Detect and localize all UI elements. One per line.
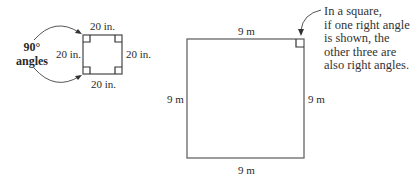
right-angle-mark-top-left: [83, 35, 90, 42]
right-angle-note: In a square, if one right angle is shown…: [324, 5, 410, 73]
note-pointer-curve: [301, 10, 321, 30]
large-square: [187, 39, 304, 158]
small-square-right-label: 20 in.: [126, 49, 151, 60]
large-square-bottom-label: 9 m: [238, 165, 255, 176]
large-square-left-label: 9 m: [167, 94, 184, 105]
right-angle-mark-bottom-left: [83, 67, 90, 74]
angles-callout-word: angles: [12, 54, 52, 68]
arrow-curve-top: [34, 26, 80, 40]
arrow-curve-bottom: [34, 68, 80, 82]
arrow-head-bottom: [75, 75, 82, 80]
angles-callout: 90° angles: [12, 40, 52, 68]
small-square: [83, 35, 122, 74]
large-square-right-label: 9 m: [308, 94, 325, 105]
large-square-top-label: 9 m: [238, 26, 255, 37]
note-line: also right angles.: [324, 59, 410, 73]
small-square-bottom-label: 20 in.: [91, 79, 116, 90]
small-square-left-label: 20 in.: [56, 49, 81, 60]
note-pointer-head: [298, 29, 304, 36]
note-line: In a square,: [324, 5, 410, 19]
note-line: if one right angle: [324, 19, 410, 33]
right-angle-mark-bottom-right: [115, 67, 122, 74]
angles-callout-degrees: 90°: [12, 40, 52, 54]
note-line: other three are: [324, 46, 410, 60]
small-square-top-label: 20 in.: [90, 21, 115, 32]
arrow-head-top: [75, 29, 82, 34]
note-line: is shown, the: [324, 32, 410, 46]
right-angle-mark-top-right: [115, 35, 122, 42]
right-angle-mark-large: [296, 39, 304, 47]
